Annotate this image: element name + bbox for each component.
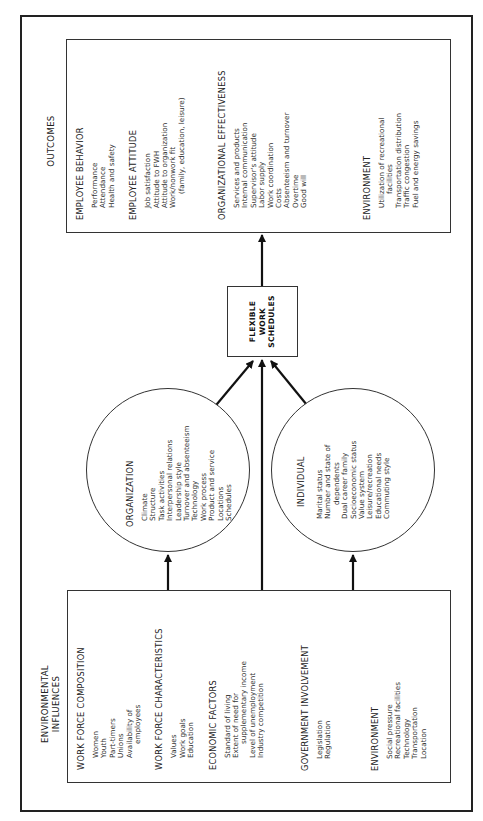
section-heading: ECONOMIC FACTORS <box>208 628 218 770</box>
outcomes-col-3: ENVIRONMENT Utilization of recreational … <box>362 113 420 220</box>
arrow-organization-to-fws <box>212 361 253 410</box>
organization-circle: ORGANIZATION Climate Structure Task acti… <box>86 388 250 552</box>
organization-title: ORGANIZATION <box>125 460 135 527</box>
individual-title: INDIVIDUAL <box>296 456 306 507</box>
section-heading: WORK FORCE COMPOSITION <box>76 628 86 770</box>
outcomes-box: EMPLOYEE BEHAVIOR Performance Attendance… <box>66 39 451 233</box>
environmental-title: ENVIRONMENTAL INFLUENCES <box>40 629 62 779</box>
outcomes-title: OUTCOMES <box>46 81 57 201</box>
individual-circle: INDIVIDUAL Marital status Number and sta… <box>271 388 435 552</box>
env-section-government-involvement: GOVERNMENT INVOLVEMENT Legislation Regul… <box>300 645 333 771</box>
outcomes-col-1: EMPLOYEE BEHAVIOR Performance Attendance… <box>75 97 186 220</box>
env-section-work-force-composition: WORK FORCE COMPOSITION Women Youth Part-… <box>76 628 266 770</box>
diagram-canvas: ENVIRONMENTAL INFLUENCES WORK FORCE COMP… <box>0 0 483 821</box>
env-section-environment: ENVIRONMENT Social pressure Recreational… <box>370 682 428 771</box>
flexible-work-schedules-box: FLEXIBLE WORK SCHEDULES <box>227 286 298 357</box>
section-heading: WORK FORCE CHARACTERISTICS <box>154 628 164 770</box>
outcomes-col-2: ORGANIZATIONAL EFFECTIVENESS Services an… <box>217 70 309 220</box>
